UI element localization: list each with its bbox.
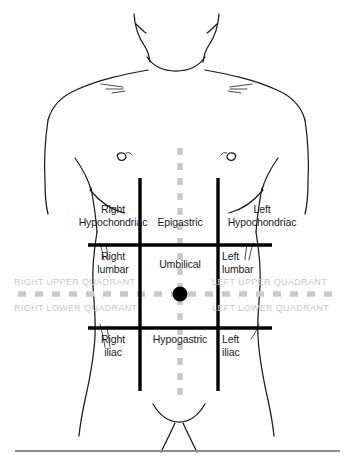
clavicle-right-hatch-1 — [230, 84, 252, 87]
shoulder-left-outline — [48, 70, 148, 120]
armpit-left-outline — [75, 158, 91, 190]
nipple-right-tail — [221, 153, 227, 155]
nipple-left-tail — [126, 153, 132, 155]
nipple-right-icon — [227, 153, 236, 161]
region-label-left-iliac: Left iliac — [222, 333, 270, 358]
arm-right-outer-outline — [305, 120, 308, 214]
nipple-left-icon — [117, 153, 126, 161]
abdominal-regions-diagram: Right Hypochondriac Epigastric Left Hypo… — [0, 0, 353, 466]
armpit-right-outline — [262, 158, 278, 190]
region-label-right-lumbar: Right lumbar — [88, 250, 138, 275]
quadrant-label-right-upper: RIGHT UPPER QUADRANT — [14, 277, 135, 287]
clavicle-left-hatch-1 — [101, 84, 123, 87]
shoulder-right-outline — [205, 70, 305, 120]
region-label-left-hypochondriac: Left Hypochondriac — [203, 203, 321, 228]
clavicle-right-hatch-3 — [228, 91, 241, 93]
clavicle-left-hatch-3 — [112, 91, 125, 93]
thigh-right-inner-outline — [183, 423, 197, 452]
body-outline-group — [45, 14, 309, 452]
thigh-left-inner-outline — [161, 423, 175, 452]
groin-curve-outline — [153, 404, 205, 422]
neck-right-outline — [203, 14, 219, 62]
umbilicus-dot — [173, 287, 188, 302]
region-label-umbilical: Umbilical — [146, 258, 214, 271]
torso-figure — [0, 0, 353, 466]
quadrant-label-left-upper: LEFT UPPER QUADRANT — [212, 277, 327, 287]
region-label-right-iliac: Right iliac — [88, 333, 138, 358]
neck-left-outline — [134, 14, 150, 62]
neck-base-curve — [147, 57, 205, 71]
quadrant-dashed-lines — [18, 148, 336, 401]
quadrant-label-right-lower: RIGHT LOWER QUADRANT — [14, 303, 137, 313]
quadrant-label-left-lower: LEFT LOWER QUADRANT — [212, 303, 329, 313]
region-label-left-lumbar: Left lumbar — [222, 250, 270, 275]
arm-left-outer-outline — [45, 120, 48, 214]
region-label-hypogastric: Hypogastric — [143, 333, 217, 346]
